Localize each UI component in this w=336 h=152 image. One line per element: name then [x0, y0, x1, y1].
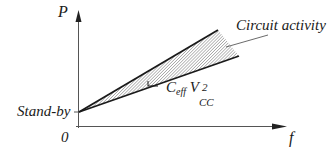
x-axis-label: f — [289, 130, 293, 146]
y-axis-arrow-icon — [76, 10, 82, 22]
slope-c: C — [166, 79, 176, 95]
circuit-activity-label: Circuit activity — [236, 18, 326, 33]
origin-label: 0 — [61, 130, 69, 145]
activity-region — [79, 30, 239, 112]
standby-label: Stand-by — [17, 104, 70, 119]
slope-v: V — [190, 79, 199, 95]
slope-label: Ceff V2CC — [166, 80, 217, 97]
x-axis-arrow-icon — [272, 124, 287, 130]
slope-c-sub: eff — [176, 86, 186, 97]
activity-leader-line — [226, 35, 268, 47]
slope-v-sup: 2 — [202, 82, 208, 93]
slope-v-sub: CC — [199, 97, 214, 108]
power-vs-frequency-diagram: P 0 f Stand-by Circuit activity Ceff V2C… — [0, 0, 336, 152]
y-axis-label: P — [58, 4, 68, 20]
